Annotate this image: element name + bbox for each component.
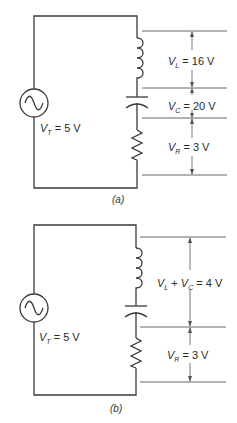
- wire-left-bottom-a: [34, 117, 137, 188]
- wire-left-a: [34, 16, 137, 89]
- capacitor-icon: [126, 97, 148, 130]
- label-vt: VT = 5 V: [40, 122, 81, 136]
- caption-b: (b): [110, 403, 122, 414]
- caption-a: (a): [112, 194, 124, 205]
- label-vt: VT = 5 V: [39, 331, 80, 345]
- dimension-arrow-vlc: [188, 237, 192, 327]
- ac-source-icon: [20, 294, 48, 322]
- diagram-b: VL + VC = 4 V VR = 3 V VT = 5 V (b): [20, 225, 226, 414]
- label-vr: VR = 3 V: [167, 349, 209, 363]
- inductor-icon: [136, 248, 142, 306]
- label-vl: VL = 16 V: [168, 55, 215, 69]
- diagram-a: VL = 16 V VC = 20 V VR = 3 V VT = 5 V (a…: [20, 16, 227, 205]
- capacitor-icon: [125, 306, 147, 338]
- label-vc: VC = 20 V: [168, 100, 216, 114]
- resistor-icon: [131, 338, 141, 368]
- ac-source-icon: [20, 89, 48, 117]
- series-rlc-diagrams: VL = 16 V VC = 20 V VR = 3 V VT = 5 V (a…: [0, 0, 237, 423]
- label-vl-plus-vc: VL + VC = 4 V: [157, 277, 223, 291]
- label-vr: VR = 3 V: [168, 141, 210, 155]
- wire-left-bottom-b: [34, 322, 136, 395]
- wire-left-b: [34, 225, 136, 294]
- resistor-icon: [132, 130, 142, 160]
